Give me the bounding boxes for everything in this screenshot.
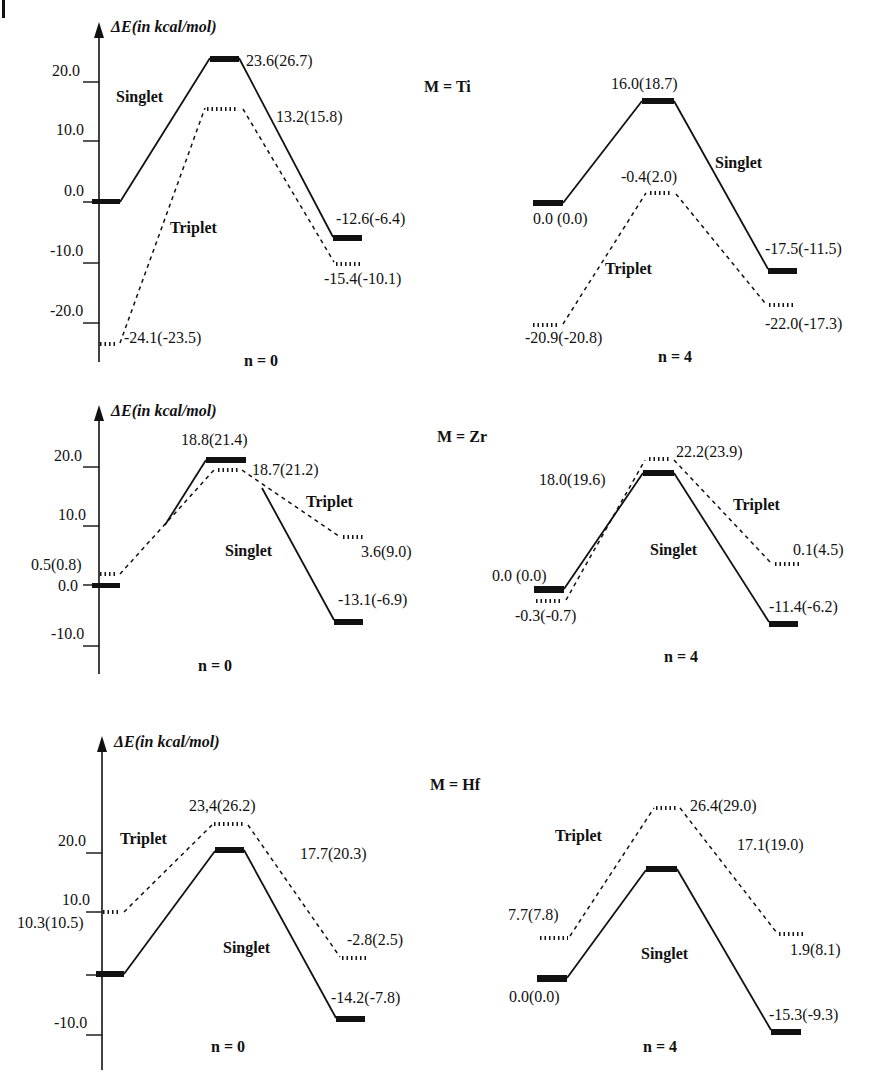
singlet-reactant-value: 0.0 (0.0) — [492, 567, 547, 585]
singlet-path — [124, 851, 215, 974]
metal-label: M = Hf — [430, 776, 481, 793]
singlet-product-value: -17.5(-11.5) — [765, 240, 842, 258]
triplet-label: Triplet — [555, 827, 602, 845]
triplet-reactant-value: 10.3(10.5) — [17, 914, 84, 932]
singlet-product-value: -13.1(-6.9) — [338, 591, 407, 609]
singlet-reactant-level — [96, 971, 124, 977]
y-ticks: 20.0 10.0 0.0 -10.0 -20.0 — [50, 62, 99, 323]
y-tick-label: 20.0 — [52, 62, 80, 79]
singlet-product-level — [336, 1016, 365, 1022]
singlet-ts-value: 17.1(19.0) — [737, 836, 804, 854]
singlet-path — [165, 460, 206, 525]
triplet-label: Triplet — [605, 260, 652, 278]
triplet-reactant-value: -0.3(-0.7) — [515, 607, 576, 625]
triplet-reactant-value: -20.9(-20.8) — [525, 329, 602, 347]
triplet-reactant-value: 0.5(0.8) — [31, 556, 82, 574]
n-label: n = 0 — [198, 657, 232, 674]
triplet-ts-value: 23,4(26.2) — [189, 797, 256, 815]
metal-label: M = Ti — [424, 78, 471, 95]
singlet-ts-level — [206, 457, 246, 463]
y-tick-label: -10.0 — [54, 1014, 87, 1031]
triplet-ts-value: 18.7(21.2) — [252, 461, 319, 479]
n-label: n = 0 — [211, 1038, 245, 1055]
y-tick-label: 0.0 — [64, 182, 84, 199]
singlet-path — [563, 101, 642, 203]
singlet-ts-value: 18.8(21.4) — [181, 431, 248, 449]
triplet-product-value: -22.0(-17.3) — [765, 315, 842, 333]
singlet-reactant-value: 0.0(0.0) — [509, 988, 560, 1006]
triplet-reactant-value: 7.7(7.8) — [508, 906, 559, 924]
y-tick-label: 20.0 — [54, 447, 82, 464]
axis-title: ΔE(in kcal/mol) — [110, 18, 217, 36]
n-label: n = 4 — [664, 648, 698, 665]
singlet-label: Singlet — [650, 541, 698, 559]
singlet-product-value: -15.3(-9.3) — [769, 1006, 838, 1024]
singlet-ts-value: 16.0(18.7) — [611, 75, 678, 93]
panel-zr-n0: ΔE(in kcal/mol) 20.0 10.0 0.0 -10.0 18.8… — [31, 402, 412, 674]
singlet-label: Singlet — [225, 542, 273, 560]
panel-hf-n4: M = Hf 26.4(29.0) 17.1(19.0) 7.7(7.8) 0.… — [430, 776, 841, 1055]
triplet-ts-value: 22.2(23.9) — [676, 443, 743, 461]
y-ticks: 20.0 10.0 -10.0 — [54, 832, 102, 1035]
metal-label: M = Zr — [437, 428, 487, 445]
triplet-product-value: -15.4(-10.1) — [324, 270, 401, 288]
singlet-reactant-level — [533, 200, 563, 206]
singlet-product-value: -11.4(-6.2) — [769, 598, 838, 616]
y-tick-label: -20.0 — [50, 302, 83, 319]
singlet-path — [564, 473, 643, 589]
singlet-label: Singlet — [223, 939, 271, 957]
singlet-ts-level — [646, 866, 677, 872]
triplet-ts-value: -0.4(2.0) — [621, 168, 677, 186]
y-tick-label: -10.0 — [50, 242, 83, 259]
singlet-reactant-level — [534, 586, 564, 593]
triplet-label: Triplet — [120, 830, 167, 848]
y-tick-label: 0.0 — [58, 577, 78, 594]
triplet-label: Triplet — [170, 219, 217, 237]
triplet-product-value: 1.9(8.1) — [790, 941, 841, 959]
panel-hf-n0: ΔE(in kcal/mol) 20.0 10.0 -10.0 23,4(26.… — [17, 733, 403, 1070]
singlet-ts-level — [210, 56, 239, 62]
y-tick-label: 10.0 — [58, 506, 86, 523]
singlet-product-ts-level — [215, 847, 244, 853]
singlet-product-level — [771, 1029, 801, 1035]
triplet-ts-value: 13.2(15.8) — [276, 108, 343, 126]
triplet-label: Triplet — [306, 493, 353, 511]
singlet-reactant-level — [92, 199, 120, 204]
singlet-ts-level — [643, 470, 674, 476]
triplet-reactant-value: -24.1(-23.5) — [124, 329, 201, 347]
axis-arrow-icon — [94, 405, 104, 421]
triplet-path — [676, 194, 765, 303]
y-tick-label: -10.0 — [51, 625, 84, 642]
singlet-product-value: -14.2(-7.8) — [331, 989, 400, 1007]
singlet-label: Singlet — [715, 154, 763, 172]
y-tick-label: 10.0 — [56, 121, 84, 138]
n-label: n = 4 — [643, 1038, 677, 1055]
triplet-product-value: 3.6(9.0) — [361, 543, 412, 561]
cropped-margin-bar — [2, 0, 5, 18]
singlet-ts-level — [642, 98, 674, 104]
axis-arrow-icon — [97, 736, 107, 752]
singlet-path — [567, 870, 646, 978]
triplet-product-value: -2.8(2.5) — [347, 931, 403, 949]
y-tick-label: 10.0 — [62, 891, 90, 908]
singlet-ts-value: 23.6(26.7) — [246, 52, 313, 70]
singlet-reactant-level — [92, 583, 120, 588]
triplet-label: Triplet — [733, 496, 780, 514]
axis-arrow-icon — [94, 22, 104, 38]
singlet-product-level — [769, 621, 798, 627]
triplet-product-value: 0.1(4.5) — [793, 541, 844, 559]
triplet-ts-value: 26.4(29.0) — [690, 797, 757, 815]
triplet-path — [680, 808, 777, 933]
panel-ti-n4: M = Ti 16.0(18.7) -0.4(2.0) 0.0 (0.0) -1… — [424, 75, 842, 365]
singlet-label: Singlet — [641, 945, 689, 963]
singlet-path — [674, 101, 768, 269]
singlet-product-level — [768, 268, 797, 274]
singlet-reactant-level — [537, 975, 567, 982]
y-tick-label: 20.0 — [58, 832, 86, 849]
singlet-product-level — [334, 619, 363, 625]
singlet-product-level — [333, 235, 362, 241]
singlet-reactant-value: 0.0 (0.0) — [533, 210, 588, 228]
n-label: n = 4 — [658, 348, 692, 365]
panel-zr-n4: M = Zr 22.2(23.9) 18.0(19.6) 0.0 (0.0) -… — [437, 428, 844, 665]
energy-profile-figure: ΔE(in kcal/mol) 20.0 10.0 0.0 -10.0 -20.… — [0, 0, 896, 1090]
